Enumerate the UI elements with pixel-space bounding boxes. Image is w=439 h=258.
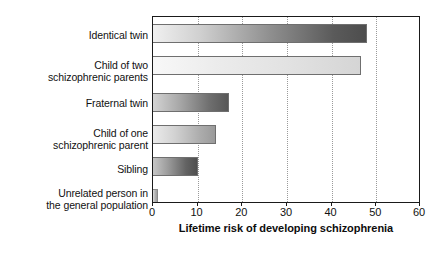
x-tick-label-50: 50 [369, 206, 381, 218]
bar-fraternal-twin [153, 93, 229, 112]
x-tick-label-40: 40 [324, 206, 336, 218]
category-label-unrelated-person: Unrelated person in the general populati… [0, 188, 148, 211]
x-tick-label-60: 60 [413, 206, 425, 218]
bar-unrelated-person [153, 189, 158, 203]
bar-sibling [153, 157, 198, 176]
category-label-fraternal-twin: Fraternal twin [0, 98, 148, 110]
gridline-30 [287, 17, 288, 202]
x-axis-ticks: 0 10 20 30 40 50 60 [152, 203, 420, 221]
category-label-identical-twin: Identical twin [0, 30, 148, 42]
gridline-40 [332, 17, 333, 202]
category-label-sibling: Sibling [0, 164, 148, 176]
gridline-20 [242, 17, 243, 202]
bar-child-of-one-schizophrenic-parent [153, 125, 216, 144]
x-tick-label-20: 20 [235, 206, 247, 218]
bar-identical-twin [153, 24, 367, 43]
category-label-child-of-one-schizophrenic-parent: Child of one schizophrenic parent [0, 128, 148, 151]
x-tick-label-30: 30 [280, 206, 292, 218]
gridline-50 [376, 17, 377, 202]
bar-child-of-two-schizophrenic-parents [153, 56, 361, 75]
x-axis-title: Lifetime risk of developing schizophreni… [152, 222, 420, 234]
x-tick-label-0: 0 [149, 206, 155, 218]
category-label-child-of-two-schizophrenic-parents: Child of two schizophrenic parents [0, 60, 148, 83]
plot-area [152, 16, 420, 203]
category-axis-labels: Identical twin Child of two schizophreni… [0, 16, 148, 203]
bar-chart-figure: Identical twin Child of two schizophreni… [0, 0, 439, 258]
x-tick-label-10: 10 [190, 206, 202, 218]
